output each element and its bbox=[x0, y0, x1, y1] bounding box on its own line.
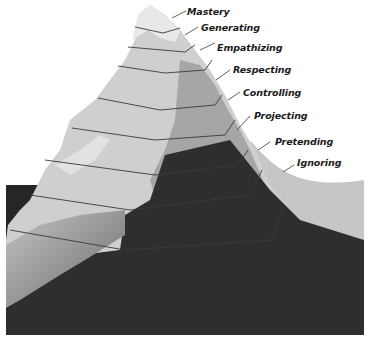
level-label-ignoring: Ignoring bbox=[297, 157, 341, 168]
level-label-respecting: Respecting bbox=[233, 64, 291, 75]
level-label-pretending: Pretending bbox=[275, 136, 333, 147]
level-label-projecting: Projecting bbox=[254, 110, 308, 121]
mountain-diagram bbox=[0, 0, 369, 344]
level-label-controlling: Controlling bbox=[243, 87, 301, 98]
level-label-generating: Generating bbox=[201, 22, 260, 33]
level-label-mastery: Mastery bbox=[187, 6, 230, 17]
level-label-empathizing: Empathizing bbox=[217, 42, 282, 53]
